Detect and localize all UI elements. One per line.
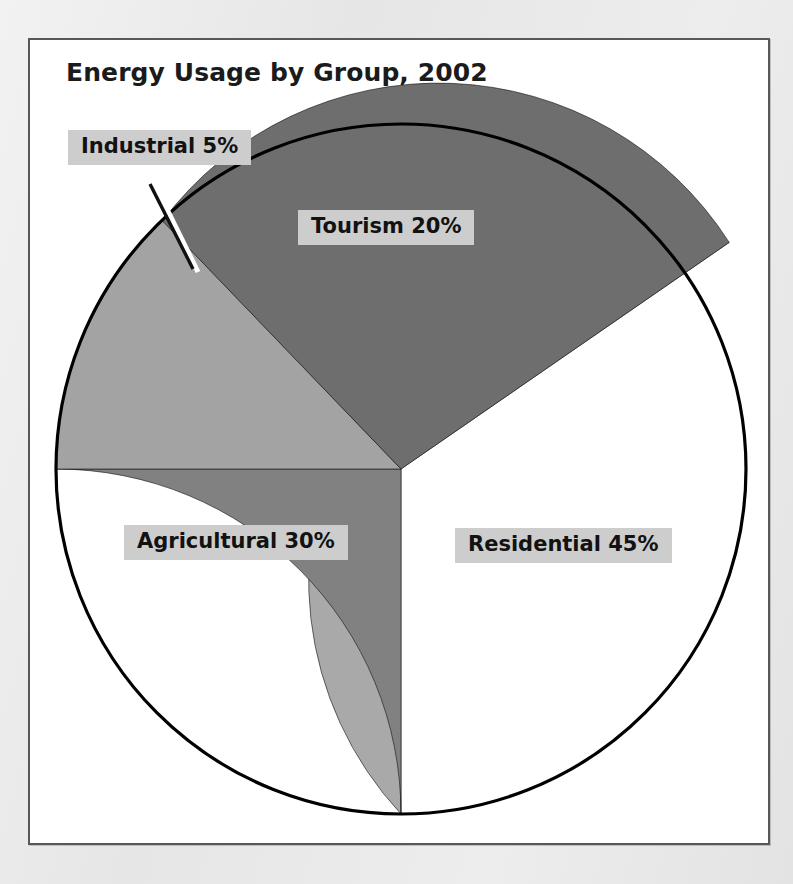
chart-panel: Energy Usage by Group, 2002 Industrial 5… [28,38,770,845]
pie-label-industrial[interactable]: Industrial 5% [68,130,251,165]
pie-label-residential[interactable]: Residential 45% [455,528,672,563]
pie-chart: Industrial 5% Tourism 20% Agricultural 3… [30,40,772,847]
pie-label-agricultural[interactable]: Agricultural 30% [124,525,348,560]
pie-label-tourism[interactable]: Tourism 20% [298,210,474,245]
